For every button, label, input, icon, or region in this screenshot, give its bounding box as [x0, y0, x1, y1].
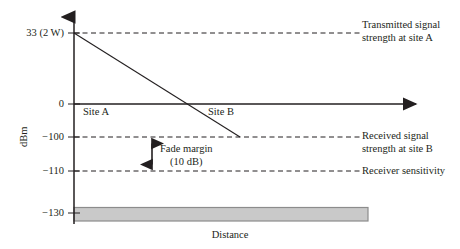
noise-floor-band: [74, 208, 368, 222]
fade-margin-label: Fade margin (10 dB): [160, 143, 213, 168]
callout-received-line1: Received signal: [362, 130, 433, 143]
y-tick-label-minus-110: −110: [6, 165, 64, 176]
y-tick-label-33: 33 (2 W): [6, 27, 64, 38]
callout-transmitted-line1: Transmitted signal: [362, 19, 440, 32]
callout-transmitted-line2: strength at site A: [362, 32, 440, 45]
y-tick-label-minus-100: −100: [6, 131, 64, 142]
y-tick-label-0: 0: [6, 98, 64, 109]
x-axis-title: Distance: [190, 229, 270, 240]
site-a-label: Site A: [83, 106, 109, 117]
callout-received-signal: Received signal strength at site B: [362, 130, 433, 155]
path-loss-line: [74, 33, 240, 137]
callout-received-line2: strength at site B: [362, 143, 433, 156]
callout-transmitted-signal: Transmitted signal strength at site A: [362, 19, 440, 44]
fade-margin-line1: Fade margin: [160, 143, 213, 156]
y-tick-label-minus-130: −130: [6, 207, 64, 218]
figure-canvas: 33 (2 W) 0 −100 −110 −130 dBm Distance S…: [0, 0, 460, 249]
fade-margin-line2: (10 dB): [160, 156, 213, 169]
y-axis-title: dBm: [18, 127, 29, 147]
callout-receiver-sensitivity: Receiver sensitivity: [362, 165, 445, 178]
site-b-label: Site B: [208, 106, 234, 117]
